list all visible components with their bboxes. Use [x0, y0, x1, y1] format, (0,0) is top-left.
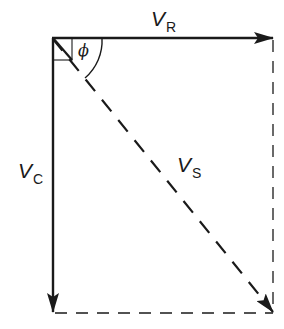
vc-label-main: V [18, 159, 32, 182]
phi-angle-label: ϕ [78, 43, 89, 59]
vs-label-sub: S [192, 165, 201, 181]
vr-label-sub: R [166, 19, 176, 35]
vs-label-main: V [177, 153, 191, 176]
vs-vector-arrow [53, 39, 273, 312]
vs-label: VS [177, 154, 201, 175]
right-angle-diagonal [53, 38, 72, 60]
vr-label: VR [151, 8, 176, 29]
vc-label-sub: C [33, 171, 43, 187]
vc-label: VC [18, 160, 43, 181]
vr-label-main: V [151, 7, 165, 30]
